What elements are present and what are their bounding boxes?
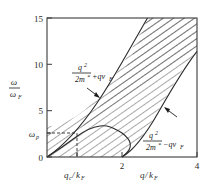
omega-p-symbol: ω: [29, 129, 35, 139]
lower-formula-numerator: q: [149, 131, 153, 140]
y-tick-label-omega-p: ω p: [29, 129, 39, 140]
lower-arrowhead: [164, 107, 170, 113]
upper-formula-denominator-sup: *: [87, 74, 90, 80]
upper-formula-arrow: [87, 88, 100, 98]
x-tick-label-4: 4: [195, 161, 200, 171]
x-tick-label-2: 2: [120, 161, 125, 171]
upper-formula-numerator-sup: 2: [84, 62, 87, 68]
y-tick-label-0: 0: [39, 153, 44, 163]
x-axis-label: q / k F: [140, 170, 158, 181]
lower-formula-numerator-sup: 2: [155, 130, 158, 136]
lower-formula-arrow: [164, 107, 177, 117]
y-tick-label-15: 15: [34, 14, 44, 24]
lower-formula-denominator: 2m: [146, 143, 156, 152]
y-axis-denominator-subscript: F: [17, 94, 22, 100]
upper-formula-annotation: q 2 2m * +qv F: [72, 62, 113, 84]
lower-formula-denominator-sup: *: [158, 142, 161, 148]
lower-formula-tail: −qv: [163, 140, 176, 149]
upper-formula-tail: +qv: [92, 72, 105, 81]
lower-formula-tail-sub: F: [179, 144, 184, 150]
figure-container: 15 10 5 0 ω p 2 4 q c / k F q / k F ω ω …: [0, 0, 208, 194]
upper-formula-tail-sub: F: [108, 76, 113, 82]
upper-arrowhead: [94, 92, 100, 98]
omega-p-subscript: p: [35, 134, 39, 140]
y-axis-denominator: ω: [10, 89, 16, 99]
y-axis-label: ω ω F: [9, 77, 22, 100]
particle-hole-continuum-chart: 15 10 5 0 ω p 2 4 q c / k F q / k F ω ω …: [0, 0, 208, 194]
y-tick-label-5: 5: [39, 106, 44, 116]
y-tick-label-10: 10: [34, 60, 44, 70]
upper-formula-numerator: q: [78, 63, 82, 72]
y-axis-numerator: ω: [11, 77, 17, 87]
x-tick-label-qc: q c / k F: [64, 170, 85, 181]
lower-formula-annotation: q 2 2m * −qv F: [143, 130, 184, 152]
x-axis-k-subscript: F: [153, 175, 158, 181]
upper-formula-denominator: 2m: [75, 75, 85, 84]
qc-k-subscript: F: [80, 175, 85, 181]
